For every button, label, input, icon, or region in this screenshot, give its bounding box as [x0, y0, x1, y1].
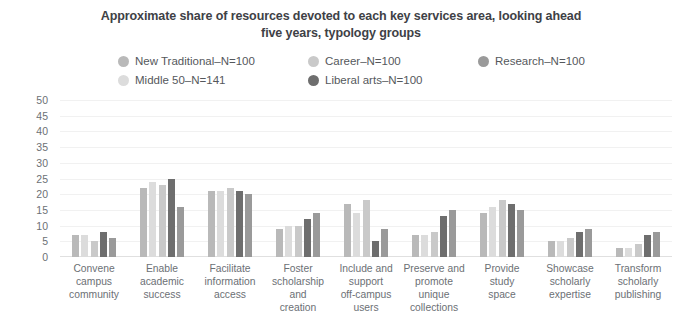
x-axis-label-line: unique [401, 288, 467, 301]
bar[interactable] [412, 235, 419, 257]
y-axis-tick-label: 5 [22, 236, 48, 246]
bar[interactable] [625, 248, 632, 257]
x-axis-label-line: off-campus [333, 288, 399, 301]
legend-row-1: New Traditional–N=100 Career–N=100 Resea… [118, 52, 678, 71]
bar[interactable] [548, 241, 555, 257]
bar[interactable] [159, 185, 166, 257]
bar-group [60, 100, 128, 257]
x-axis-label-line: Provide [469, 262, 535, 275]
bar-groups [60, 100, 672, 257]
bar[interactable] [276, 229, 283, 257]
x-axis-label: Facilitateinformationaccess [196, 262, 264, 314]
chart-title: Approximate share of resources devoted t… [0, 8, 682, 42]
legend-swatch-new-traditional [118, 56, 129, 67]
bar[interactable] [72, 235, 79, 257]
x-axis-label-line: study [469, 275, 535, 288]
bar[interactable] [109, 238, 116, 257]
bar[interactable] [567, 238, 574, 257]
bar[interactable] [295, 226, 302, 257]
legend-label-new-traditional: New Traditional–N=100 [135, 55, 255, 68]
x-axis-label-line: Enable [129, 262, 195, 275]
x-axis-label-line: Foster [265, 262, 331, 275]
bar[interactable] [149, 182, 156, 257]
y-axis-tick-label: 15 [22, 205, 48, 215]
bar[interactable] [227, 188, 234, 257]
bar[interactable] [353, 213, 360, 257]
bar[interactable] [313, 213, 320, 257]
x-axis-label-line: scholarly [605, 275, 671, 288]
chart-container: Approximate share of resources devoted t… [0, 0, 682, 336]
plot-area: 50454035302520151050 [60, 100, 672, 257]
x-axis-label-line: Convene [61, 262, 127, 275]
bar[interactable] [431, 232, 438, 257]
legend-label-research: Research–N=100 [495, 55, 585, 68]
bar[interactable] [616, 248, 623, 257]
bar[interactable] [635, 244, 642, 257]
legend-item-research[interactable]: Research–N=100 [478, 55, 648, 68]
bar[interactable] [304, 219, 311, 257]
bar[interactable] [499, 200, 506, 257]
x-axis-label-line: scholarly [537, 275, 603, 288]
bar[interactable] [585, 229, 592, 257]
legend-item-liberal-arts[interactable]: Liberal arts–N=100 [308, 74, 478, 87]
bar[interactable] [489, 207, 496, 257]
bar[interactable] [100, 232, 107, 257]
bar[interactable] [285, 226, 292, 257]
bar[interactable] [363, 200, 370, 257]
bar[interactable] [653, 232, 660, 257]
legend-swatch-middle-50 [118, 75, 129, 86]
bar[interactable] [236, 191, 243, 257]
x-axis-label: Enableacademicsuccess [128, 262, 196, 314]
bar-group [536, 100, 604, 257]
x-axis-label-line: publishing [605, 288, 671, 301]
bar[interactable] [91, 241, 98, 257]
y-axis-tick-label: 20 [22, 189, 48, 199]
x-axis-label: Showcasescholarlyexpertise [536, 262, 604, 314]
x-axis-label-line: community [61, 288, 127, 301]
x-axis-label-line: users [333, 301, 399, 314]
bar[interactable] [140, 188, 147, 257]
bar[interactable] [644, 235, 651, 257]
bar[interactable] [81, 235, 88, 257]
x-axis-label: Include andsupportoff-campususers [332, 262, 400, 314]
legend-label-liberal-arts: Liberal arts–N=100 [325, 74, 423, 87]
x-axis-label-line: and [265, 288, 331, 301]
legend-swatch-liberal-arts [308, 75, 319, 86]
x-axis-label-line: support [333, 275, 399, 288]
bar-group [128, 100, 196, 257]
legend-item-new-traditional[interactable]: New Traditional–N=100 [118, 55, 308, 68]
legend-item-career[interactable]: Career–N=100 [308, 55, 478, 68]
x-axis-label: Convenecampuscommunity [60, 262, 128, 314]
bar[interactable] [177, 207, 184, 257]
bar[interactable] [381, 229, 388, 257]
x-axis-label-line: space [469, 288, 535, 301]
bar[interactable] [508, 204, 515, 257]
bar[interactable] [217, 191, 224, 257]
x-axis-label-line: Include and [333, 262, 399, 275]
bar[interactable] [421, 235, 428, 257]
legend-item-middle-50[interactable]: Middle 50–N=141 [118, 74, 308, 87]
x-axis-label-line: Preserve and [401, 262, 467, 275]
x-axis-label: Transformscholarlypublishing [604, 262, 672, 314]
bar[interactable] [557, 241, 564, 257]
x-axis-label-line: creation [265, 301, 331, 314]
y-axis-tick-label: 40 [22, 126, 48, 136]
bar[interactable] [344, 204, 351, 257]
x-axis-label-line: expertise [537, 288, 603, 301]
bar[interactable] [245, 194, 252, 257]
bar[interactable] [480, 213, 487, 257]
bar[interactable] [440, 216, 447, 257]
bar[interactable] [449, 210, 456, 257]
bar[interactable] [576, 232, 583, 257]
x-axis-labels: ConvenecampuscommunityEnableacademicsucc… [60, 262, 672, 314]
y-axis-tick-label: 50 [22, 95, 48, 105]
bar[interactable] [208, 191, 215, 257]
chart-title-line-2: five years, typology groups [0, 25, 682, 42]
x-axis-label-line: collections [401, 301, 467, 314]
x-axis-label-line: Transform [605, 262, 671, 275]
y-axis-tick-label: 25 [22, 174, 48, 184]
legend-swatch-research [478, 56, 489, 67]
bar[interactable] [517, 210, 524, 257]
bar[interactable] [372, 241, 379, 257]
bar[interactable] [168, 179, 175, 258]
